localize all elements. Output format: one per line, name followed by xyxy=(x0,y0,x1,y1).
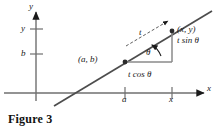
point-label-xy: (x, y) xyxy=(177,25,195,34)
y-tick-label-b: b xyxy=(21,49,26,58)
x-axis-label: x xyxy=(207,84,211,93)
y-axis-label: y xyxy=(29,2,33,11)
figure-caption: Figure 3 xyxy=(8,112,52,127)
x-tick-label-x: x xyxy=(169,95,173,104)
point-marker-ab xyxy=(123,60,128,65)
x-tick-label-a: a xyxy=(122,95,127,104)
t-vector-dashed-arrow xyxy=(126,21,168,46)
axes-group xyxy=(4,12,204,101)
y-tick-label-y: y xyxy=(21,24,25,33)
point-label-ab: (a, b) xyxy=(78,55,98,64)
figure-3-container: y x y b a x (a, b) (x, y) t θ t cos θ t … xyxy=(0,0,220,133)
horizontal-leg-label: t cos θ xyxy=(128,70,151,79)
tick-marks-group xyxy=(30,29,172,99)
angle-label-theta: θ xyxy=(146,48,150,57)
point-marker-xy xyxy=(170,29,175,34)
vector-label-t: t xyxy=(139,28,142,37)
vertical-leg-label: t sin θ xyxy=(177,36,199,45)
